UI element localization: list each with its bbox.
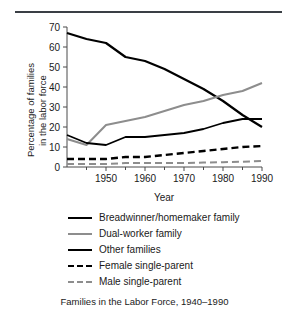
figure-container: Percentage of families in the labor forc… [0,0,289,314]
y-axis-title-line2: in the labor force [37,75,48,146]
x-tick-label: 1950 [95,173,118,184]
y-tick-label: 30 [49,102,61,113]
series-line-2 [67,119,262,145]
legend-swatch-icon [68,276,92,288]
data-series-group [67,33,262,164]
line-chart-plot: Percentage of families in the labor forc… [0,18,289,208]
legend-item[interactable]: Breadwinner/homemaker family [0,210,289,226]
y-axis-title: Percentage of families in the labor forc… [25,63,48,157]
top-divider-rule [15,11,282,13]
y-tick-label: 20 [49,122,61,133]
series-line-4 [67,161,262,164]
legend-label: Other families [99,244,161,256]
y-tick-label: 70 [49,22,61,33]
y-tick-label: 60 [49,42,61,53]
y-tick-label: 50 [49,62,61,73]
legend-swatch-icon [68,212,92,224]
legend-label: Female single-parent [99,260,193,272]
chart-legend: Breadwinner/homemaker familyDual-worker … [0,210,289,290]
legend-label: Dual-worker family [99,228,182,240]
figure-caption: Families in the Labor Force, 1940–1990 [0,296,289,307]
x-axis-ticks: 19501960197019801990 [87,167,274,184]
x-tick-label: 1990 [251,173,274,184]
y-axis-title-line1: Percentage of families [25,63,36,157]
x-tick-label: 1960 [134,173,157,184]
y-tick-label: 10 [49,142,61,153]
legend-swatch-icon [68,228,92,240]
legend-item[interactable]: Male single-parent [0,274,289,290]
series-line-0 [67,33,262,127]
legend-swatch-icon [68,260,92,272]
legend-item[interactable]: Female single-parent [0,258,289,274]
x-axis-title: Year [154,192,175,203]
legend-label: Male single-parent [99,276,181,288]
x-tick-label: 1970 [173,173,196,184]
x-tick-label: 1980 [212,173,235,184]
series-line-3 [67,146,262,159]
y-tick-label: 0 [54,162,60,173]
legend-item[interactable]: Other families [0,242,289,258]
legend-label: Breadwinner/homemaker family [99,212,240,224]
y-tick-label: 40 [49,82,61,93]
legend-swatch-icon [68,244,92,256]
legend-item[interactable]: Dual-worker family [0,226,289,242]
y-axis-ticks: 010203040506070 [49,22,67,173]
